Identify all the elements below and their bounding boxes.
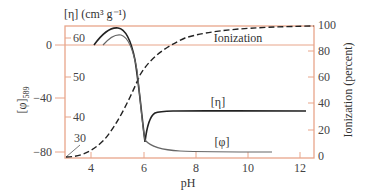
svg-text:12: 12: [294, 161, 306, 175]
svg-text:60: 60: [73, 31, 85, 45]
svg-text:50: 50: [73, 70, 85, 84]
series-phi: [103, 35, 272, 152]
svg-text:0: 0: [46, 38, 52, 52]
label-phi: [φ]: [215, 135, 230, 149]
svg-text:100: 100: [318, 18, 336, 32]
svg-text:20: 20: [318, 123, 330, 137]
plot-frame: [65, 26, 314, 158]
eta-axis: 60 50 40 30: [65, 31, 86, 157]
svg-text:30: 30: [74, 131, 86, 145]
svg-text:−80: −80: [33, 145, 52, 159]
phi-axis-title: [φ]589: [15, 87, 31, 114]
svg-text:40: 40: [318, 96, 330, 110]
label-eta: [η]: [211, 95, 225, 109]
eta-axis-title: [η] (cm³ g⁻¹): [64, 7, 126, 21]
ionization-axis: 100 80 60 40 20 0: [308, 18, 336, 163]
svg-text:80: 80: [318, 44, 330, 58]
svg-text:60: 60: [318, 70, 330, 84]
svg-text:−40: −40: [33, 91, 52, 105]
svg-text:40: 40: [73, 110, 85, 124]
phi-axis: 0 −40 −80: [33, 38, 65, 159]
x-axis-title: pH: [181, 176, 196, 190]
label-ionization: Ionization: [214, 31, 263, 45]
series-ionization: [66, 26, 314, 157]
svg-text:10: 10: [242, 161, 254, 175]
svg-text:8: 8: [193, 161, 199, 175]
svg-text:4: 4: [88, 161, 94, 175]
svg-text:6: 6: [141, 161, 147, 175]
x-axis: 4 6 8 10 12: [88, 152, 306, 175]
ionization-axis-title: Ionization (percent): [341, 43, 355, 138]
svg-text:0: 0: [318, 149, 324, 163]
chart: 0 −40 −80 [φ]589 60 50 40 30 [η] (cm³ g⁻…: [0, 0, 366, 195]
